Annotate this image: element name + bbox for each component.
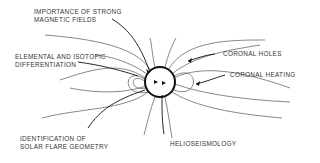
field-line xyxy=(144,97,155,135)
label-line: SOLAR FLARE GEOMETRY xyxy=(20,143,108,151)
label-line: IMPORTANCE OF STRONG xyxy=(34,8,122,16)
label-line: DIFFERENTIATION xyxy=(15,61,106,69)
label-magnetic: IMPORTANCE OF STRONG MAGNETIC FIELDS xyxy=(34,8,122,24)
pointer-magnetic xyxy=(112,19,150,72)
pointer-helio xyxy=(162,95,164,134)
field-line xyxy=(42,92,148,118)
label-elemental: ELEMENTAL AND ISOTOPIC DIFFERENTIATION xyxy=(15,53,106,69)
coronal-loop xyxy=(174,73,194,92)
pointer-coronal-heating xyxy=(196,75,225,84)
field-line xyxy=(150,38,155,67)
label-flare: IDENTIFICATION OF SOLAR FLARE GEOMETRY xyxy=(20,135,108,151)
pointer-flare xyxy=(88,90,145,128)
field-line xyxy=(165,38,176,67)
label-line: MAGNETIC FIELDS xyxy=(34,16,122,24)
label-coronal-holes: CORONAL HOLES xyxy=(223,50,282,58)
label-coronal-heating: CORONAL HEATING xyxy=(230,71,296,79)
label-line: ELEMENTAL AND ISOTOPIC xyxy=(15,53,106,61)
field-line xyxy=(165,97,172,138)
label-line: IDENTIFICATION OF xyxy=(20,135,108,143)
field-line xyxy=(70,86,146,92)
label-helioseismology: HELIOSEISMOLOGY xyxy=(170,140,236,148)
